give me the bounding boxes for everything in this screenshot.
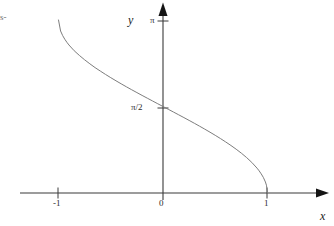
y-axis-label: y: [128, 14, 133, 26]
x-axis-label: x: [320, 210, 325, 222]
y-tick-label-pi-half: π/2: [131, 103, 143, 112]
y-tick-label-pi: π: [150, 16, 155, 25]
y-axis-arrow-icon: [159, 3, 168, 17]
x-tick-label-neg1: -1: [53, 199, 61, 208]
plot-canvas: [0, 0, 334, 226]
plot-figure: y x π π/2 -1 0 1 s-: [0, 0, 334, 226]
x-tick-label-zero: 0: [159, 199, 164, 208]
x-axis-arrow-icon: [316, 189, 329, 198]
corner-text-fragment: s-: [0, 13, 7, 22]
x-tick-label-one: 1: [264, 199, 269, 208]
